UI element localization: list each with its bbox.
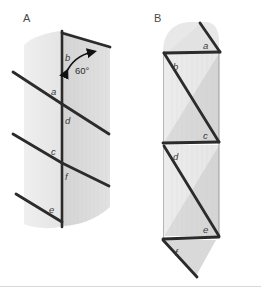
- panel-b-label-a: a: [203, 40, 208, 51]
- panel-a-angle-label: 60°: [75, 65, 90, 76]
- panel-b-label-c: c: [203, 130, 208, 141]
- panel-a-label-d: d: [65, 115, 71, 126]
- panel-b-label-b: b: [173, 61, 178, 72]
- panel-b-label-e: e: [203, 224, 208, 235]
- figure-root: A B: [0, 0, 261, 297]
- panel-b-fold-top: [164, 52, 220, 53]
- panel-a-label-e: e: [49, 204, 54, 215]
- panel-a-label-b: b: [65, 52, 70, 63]
- panel-a-label-c: c: [51, 146, 56, 157]
- figure-svg: b 60° a d c f e: [0, 0, 261, 297]
- panel-a-label-a: a: [51, 86, 56, 97]
- panel-b-label-d: d: [173, 151, 179, 162]
- panel-b-fold-middle: [163, 142, 219, 143]
- panel-b-group: a b c d e f: [163, 22, 220, 277]
- panel-a-group: b 60° a d c f e: [13, 28, 110, 232]
- panel-a-left-face: [24, 31, 62, 228]
- bottom-rule: [0, 286, 261, 287]
- panel-b-fold-bottom: [163, 237, 219, 239]
